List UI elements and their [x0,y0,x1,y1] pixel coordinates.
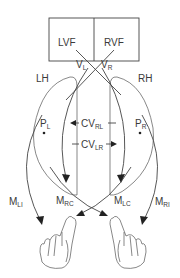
pl-dot [43,132,46,135]
m-lc-label: MLC [114,195,131,207]
cv-rl-label: CVRL [81,118,104,130]
rh-label: RH [138,73,152,84]
pr-dot [139,132,142,135]
left-hand-icon [40,216,76,268]
right-hand-icon [110,216,146,268]
m-rc-label: MRC [56,195,74,207]
lh-label: LH [36,73,49,84]
cv-lr-label: CVLR [81,139,104,151]
m-ri-arrow [140,115,158,225]
m-ri-label: MRI [155,196,170,208]
pl-label: PL [40,118,51,130]
lvf-label: LVF [58,37,76,48]
m-li-label: MLI [9,196,23,208]
right-visual-path-arrow [102,68,125,183]
m-rc-arrow [50,167,108,216]
diagram-canvas: LVF RVF VL VR LH RH PL PR CVRL CVLR [0,0,180,278]
right-hemisphere-outline [110,77,153,195]
left-hemisphere-outline [34,77,77,195]
rvf-label: RVF [104,37,124,48]
m-li-arrow [26,115,44,225]
